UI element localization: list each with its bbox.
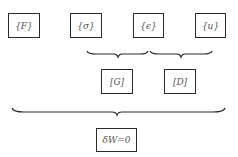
brace-all [12, 108, 225, 115]
brace-sigma-epsilon [87, 51, 148, 57]
elasticity-matrix-box: [D] [164, 69, 196, 94]
virtual-work-label: δW=0 [103, 135, 131, 145]
virtual-work-box: δW=0 [96, 128, 137, 152]
brace-epsilon-u [150, 51, 212, 57]
geometric-matrix-label: [G] [110, 77, 124, 87]
geometric-matrix-box: [G] [101, 69, 133, 94]
elasticity-matrix-label: [D] [173, 77, 187, 87]
